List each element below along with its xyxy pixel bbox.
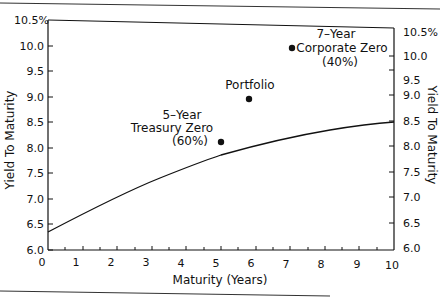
top-rule [0,3,440,9]
treasury-label-line1: 5–Year [162,108,201,122]
svg-text:0: 0 [39,256,46,269]
x-axis-title: Maturity (Years) [173,273,268,287]
svg-text:6.5: 6.5 [403,217,421,230]
svg-text:10.0: 10.0 [403,50,428,63]
corporate-annotation: 7–Year Corporate Zero (40%) [296,27,387,69]
svg-text:6.0: 6.0 [403,242,421,255]
svg-text:6: 6 [248,257,255,270]
svg-text:4: 4 [178,257,185,270]
corporate-point [289,45,295,51]
yield-curve-line [48,122,394,232]
svg-text:9.0: 9.0 [403,89,421,102]
svg-text:1: 1 [73,256,80,269]
treasury-annotation: 5–Year Treasury Zero (60%) [130,108,213,148]
svg-text:3: 3 [143,256,150,269]
corporate-label-line1: 7–Year [316,27,355,41]
left-y-tick-labels: 6.0 6.5 7.0 7.5 8.0 8.5 9.0 9.5 10.0 10.… [14,14,49,257]
portfolio-point [246,96,252,102]
corporate-label-line3: (40%) [322,55,358,69]
portfolio-label: Portfolio [225,78,274,92]
svg-text:8.5: 8.5 [27,116,45,129]
svg-text:7.0: 7.0 [27,193,45,206]
treasury-label-line3: (60%) [172,134,208,148]
treasury-label-line2: Treasury Zero [130,121,213,135]
right-y-axis-title: Yield To Maturity [425,85,439,185]
svg-text:10.5%: 10.5% [403,26,438,39]
svg-text:10.0: 10.0 [20,40,45,53]
svg-text:9.5: 9.5 [403,74,421,87]
svg-text:2: 2 [108,256,115,269]
svg-text:6.5: 6.5 [27,218,45,231]
svg-text:7.5: 7.5 [27,167,45,180]
svg-text:7.0: 7.0 [403,191,421,204]
svg-text:5: 5 [213,257,220,270]
svg-text:9: 9 [354,258,361,271]
left-y-axis-title: Yield To Maturity [3,91,17,191]
svg-text:10: 10 [385,259,399,272]
svg-text:10.5%: 10.5% [14,14,49,27]
svg-text:8.0: 8.0 [403,140,421,153]
svg-text:7.5: 7.5 [403,166,421,179]
treasury-point [218,139,224,145]
yield-curve-chart: 5–Year Treasury Zero (60%) Portfolio 7–Y… [0,0,440,297]
svg-text:9.0: 9.0 [27,91,45,104]
svg-text:8.0: 8.0 [27,142,45,155]
corporate-label-line2: Corporate Zero [296,41,387,55]
svg-text:7: 7 [283,258,290,271]
right-y-ticks [389,56,394,223]
svg-text:8: 8 [318,258,325,271]
svg-text:9.5: 9.5 [27,65,45,78]
left-y-ticks [48,46,53,250]
x-tick-labels: 0 1 2 3 4 5 6 7 8 9 10 [39,256,400,272]
svg-text:8.5: 8.5 [403,115,421,128]
bottom-rule [0,291,330,296]
